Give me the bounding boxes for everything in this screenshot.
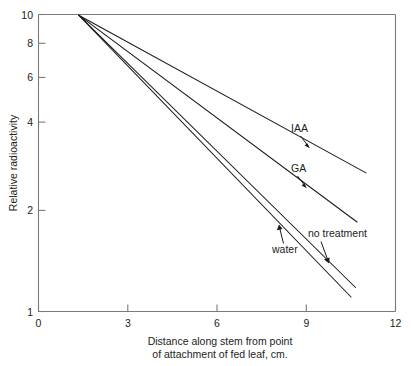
ytick-label-1: 1 (27, 306, 33, 318)
x-axis-title-line1: Distance along stem from point (148, 335, 293, 347)
ytick-label-4: 4 (27, 116, 33, 128)
ytick-label-10: 10 (21, 9, 33, 21)
series-label-water: water (271, 243, 298, 255)
annotation-arrowhead-iaa (305, 143, 310, 148)
semilog-line-chart: 10 8 6 4 2 1 0 3 6 9 12 Relative radioac… (0, 0, 411, 366)
series-line-ga (79, 15, 357, 222)
xtick-label-6: 6 (214, 317, 220, 329)
xtick-label-9: 9 (303, 317, 309, 329)
series-label-no-treatment: no treatment (308, 227, 367, 239)
series-line-no-treatment (79, 15, 351, 297)
series-label-ga: GA (291, 162, 306, 174)
annotation-arrow-water (280, 228, 284, 244)
xtick-label-3: 3 (125, 317, 131, 329)
axis-frame-left-bottom (39, 15, 396, 312)
series-line-water (79, 15, 356, 287)
ytick-label-8: 8 (27, 37, 33, 49)
ytick-label-2: 2 (27, 204, 33, 216)
ytick-label-6: 6 (27, 71, 33, 83)
x-axis-title-line2: of attachment of fed leaf, cm. (152, 348, 287, 360)
series-label-iaa: IAA (291, 122, 308, 134)
xtick-label-0: 0 (36, 317, 42, 329)
xtick-label-12: 12 (390, 317, 402, 329)
y-axis-title: Relative radioactivity (7, 114, 19, 211)
figure-container: 10 8 6 4 2 1 0 3 6 9 12 Relative radioac… (0, 0, 411, 366)
series-line-iaa (79, 15, 366, 173)
